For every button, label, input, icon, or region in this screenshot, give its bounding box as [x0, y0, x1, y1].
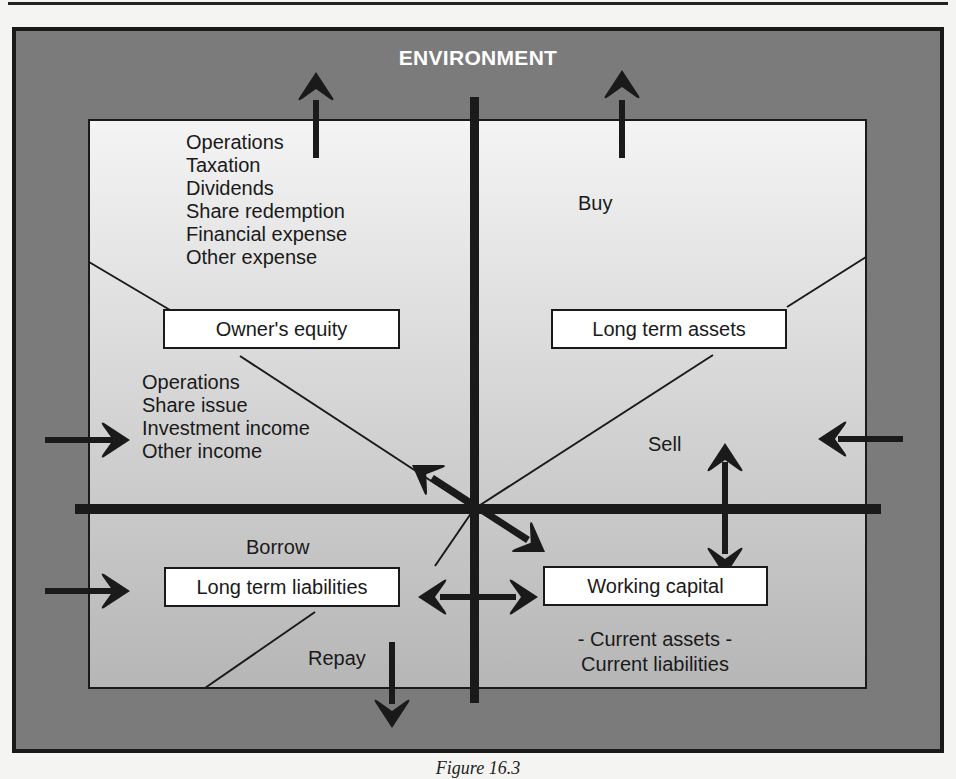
environment-title: ENVIRONMENT — [0, 46, 956, 70]
equity-inflow-list: Operations Share issue Investment income… — [142, 371, 310, 463]
definition-line: - Current assets - — [555, 627, 755, 652]
equity-outflow-list: Operations Taxation Dividends Share rede… — [186, 131, 347, 269]
long-term-liabilities-box: Long term liabilities — [164, 567, 400, 607]
vertical-axis — [470, 97, 479, 703]
list-item: Taxation — [186, 154, 347, 177]
long-term-assets-box: Long term assets — [551, 309, 787, 349]
buy-label: Buy — [578, 192, 612, 215]
figure-caption: Figure 16.3 — [0, 758, 956, 779]
list-item: Financial expense — [186, 223, 347, 246]
list-item: Other expense — [186, 246, 347, 269]
repay-label: Repay — [308, 647, 366, 670]
sell-label: Sell — [648, 433, 681, 456]
list-item: Share issue — [142, 394, 310, 417]
borrow-label: Borrow — [246, 536, 309, 559]
list-item: Dividends — [186, 177, 347, 200]
working-capital-box: Working capital — [543, 566, 768, 606]
list-item: Investment income — [142, 417, 310, 440]
definition-line: Current liabilities — [555, 652, 755, 677]
owners-equity-box: Owner's equity — [163, 309, 400, 349]
list-item: Operations — [142, 371, 310, 394]
working-capital-definition: - Current assets - Current liabilities — [555, 627, 755, 677]
list-item: Operations — [186, 131, 347, 154]
list-item: Share redemption — [186, 200, 347, 223]
list-item: Other income — [142, 440, 310, 463]
